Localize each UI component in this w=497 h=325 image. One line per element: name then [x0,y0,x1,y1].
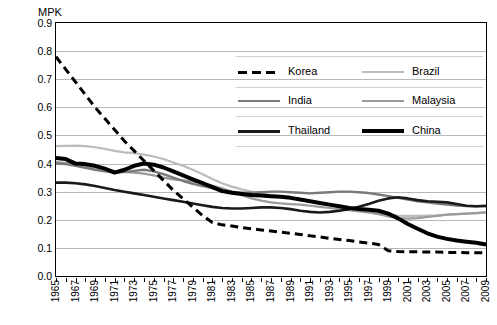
x-tick-label: 1983 [227,280,237,302]
legend-label: Korea [288,65,317,78]
legend-swatch-icon [362,100,404,102]
x-tick-label: 1991 [305,280,315,302]
x-tick-mark [320,278,321,282]
y-tick-label: 0.8 [18,46,52,56]
x-tick-mark [457,278,458,282]
x-tick-mark [85,278,86,282]
x-tick-mark [164,278,165,282]
x-tick-mark [105,278,106,282]
x-tick-label: 1995 [344,280,354,302]
x-tick-mark [144,278,145,282]
legend-swatch-icon [362,71,404,73]
x-tick-mark [281,278,282,282]
legend-item-korea[interactable]: Korea [236,57,359,87]
legend-item-brazil[interactable]: Brazil [360,57,483,87]
series-line-brazil [56,146,486,216]
x-tick-label: 1993 [325,280,335,302]
x-tick-mark [379,278,380,282]
x-tick-label: 1969 [90,280,100,302]
x-tick-label: 1971 [110,280,120,302]
x-tick-label: 1965 [51,280,61,302]
x-tick-label: 1999 [383,280,393,302]
legend-label: Malaysia [412,94,455,107]
x-tick-mark [398,278,399,282]
legend-item-thailand[interactable]: Thailand [236,116,359,146]
x-tick-label: 1987 [266,280,276,302]
x-tick-label: 1967 [71,280,81,302]
y-tick-label: 0.1 [18,243,52,253]
x-tick-label: 2007 [461,280,471,302]
y-axis-tick-labels: 0.00.10.20.30.40.50.60.70.80.9 [16,22,52,277]
x-tick-mark [300,278,301,282]
y-tick-label: 0.3 [18,187,52,197]
x-tick-mark [359,278,360,282]
x-tick-label: 1973 [129,280,139,302]
legend-row: ThailandChina [236,116,483,147]
legend-swatch-icon [238,100,280,102]
legend-label: Thailand [288,124,330,137]
x-tick-label: 1989 [286,280,296,302]
x-tick-mark [261,278,262,282]
x-tick-mark [476,278,477,282]
x-tick-mark [339,278,340,282]
y-tick-label: 0.4 [18,159,52,169]
y-tick-label: 0.7 [18,74,52,84]
legend-swatch-icon [238,130,280,133]
x-tick-mark [437,278,438,282]
legend-label: India [288,94,312,107]
legend-label: Brazil [412,65,440,78]
legend-label: China [412,124,441,137]
legend-row: IndiaMalaysia [236,86,483,117]
x-tick-label: 2005 [442,280,452,302]
x-tick-label: 1979 [188,280,198,302]
x-tick-label: 1977 [168,280,178,302]
y-tick-label: 0.5 [18,130,52,140]
y-tick-label: 0.6 [18,102,52,112]
x-tick-label: 1985 [246,280,256,302]
legend-row: KoreaBrazil [236,56,483,88]
legend-item-malaysia[interactable]: Malaysia [360,86,483,116]
x-tick-mark [66,278,67,282]
chart-legend: KoreaBrazilIndiaMalaysiaThailandChina [236,56,483,148]
legend-swatch-icon [238,71,280,74]
x-tick-label: 2009 [481,280,491,302]
x-tick-mark [418,278,419,282]
x-tick-mark [203,278,204,282]
x-tick-label: 1981 [207,280,217,302]
legend-item-india[interactable]: India [236,86,359,116]
y-tick-label: 0.9 [18,18,52,28]
x-tick-label: 2003 [422,280,432,302]
legend-item-china[interactable]: China [360,116,483,146]
y-tick-label: 0.0 [18,271,52,281]
chart-container: MPK 0.00.10.20.30.40.50.60.70.80.9 19651… [0,0,497,325]
legend-swatch-icon [362,129,404,133]
x-tick-mark [124,278,125,282]
y-tick-label: 0.2 [18,215,52,225]
x-tick-mark [183,278,184,282]
x-tick-label: 1975 [149,280,159,302]
x-tick-label: 1997 [364,280,374,302]
x-tick-label: 2001 [403,280,413,302]
x-tick-mark [242,278,243,282]
x-axis-tick-labels: 1965196719691971197319751977197919811983… [55,278,487,325]
x-tick-mark [222,278,223,282]
